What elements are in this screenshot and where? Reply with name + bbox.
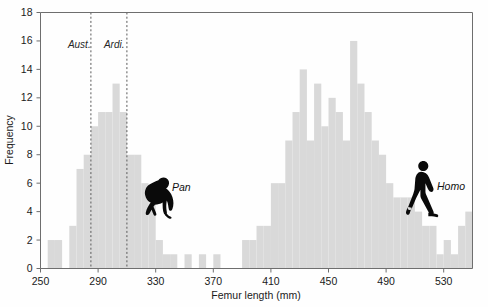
histogram-bar: [293, 112, 300, 268]
histogram-bar: [84, 155, 91, 269]
x-tick-label: 370: [205, 275, 223, 287]
histogram-bar: [257, 226, 264, 269]
histogram-bar: [242, 240, 249, 268]
histogram-bar: [365, 112, 372, 268]
y-tick-label: 14: [21, 63, 33, 75]
marker-label-ardi: Ardi.: [103, 39, 125, 50]
histogram-bar: [415, 212, 422, 269]
histogram-bar: [408, 197, 415, 268]
x-tick-label: 250: [32, 275, 50, 287]
histogram-bar: [350, 41, 357, 269]
y-tick-label: 6: [27, 177, 33, 189]
histogram-bar: [458, 226, 465, 269]
x-tick-label: 330: [147, 275, 165, 287]
histogram-bar: [314, 84, 321, 269]
y-tick-label: 16: [21, 34, 33, 46]
histogram-bar: [321, 126, 328, 268]
x-tick-label: 490: [377, 275, 395, 287]
histogram-bar: [120, 112, 127, 268]
histogram-bar: [77, 169, 84, 269]
histogram-bar: [372, 141, 379, 269]
histogram-bar: [91, 126, 98, 268]
y-axis-title: Frequency: [3, 114, 15, 164]
histogram-bar: [185, 254, 192, 268]
histogram-bar: [199, 254, 206, 268]
histogram-bar: [444, 240, 451, 268]
histogram-bar: [379, 155, 386, 269]
histogram-bar: [134, 155, 141, 269]
marker-label-aust: Aust.: [67, 39, 91, 50]
histogram-figure: Aust.Ardi. 024681012141618 2502903303704…: [0, 0, 488, 307]
histogram-bar: [156, 240, 163, 268]
histogram-bar: [55, 240, 62, 268]
histogram-bar: [336, 112, 343, 268]
histogram-bar: [401, 197, 408, 268]
histogram-bar: [249, 240, 256, 268]
histogram-bar: [329, 98, 336, 269]
histogram-bar: [113, 84, 120, 269]
x-tick-label: 530: [435, 275, 453, 287]
y-tick-label: 0: [27, 262, 33, 274]
femur-length-histogram: Aust.Ardi. 024681012141618 2502903303704…: [0, 0, 488, 307]
y-axis-ticks: 024681012141618: [21, 6, 41, 274]
histogram-bar: [69, 226, 76, 269]
histogram-bar: [451, 254, 458, 268]
histogram-bar: [278, 183, 285, 268]
histogram-bar: [105, 112, 112, 268]
histogram-bar: [422, 226, 429, 269]
histogram-bar: [127, 155, 134, 269]
x-axis-ticks: 250290330370410450490530: [32, 269, 453, 287]
y-tick-label: 8: [27, 148, 33, 160]
y-tick-label: 2: [27, 234, 33, 246]
histogram-bar: [393, 197, 400, 268]
chimpanzee-silhouette: [145, 177, 174, 218]
y-tick-label: 12: [21, 91, 33, 103]
histogram-bar: [386, 183, 393, 268]
histogram-bar: [465, 212, 472, 269]
y-tick-label: 18: [21, 6, 33, 18]
histogram-bar: [437, 254, 444, 268]
histogram-bar: [429, 226, 436, 269]
y-tick-label: 10: [21, 120, 33, 132]
y-tick-label: 4: [27, 205, 33, 217]
x-tick-label: 450: [320, 275, 338, 287]
histogram-bar: [170, 254, 177, 268]
x-tick-label: 410: [262, 275, 280, 287]
histogram-bar: [343, 141, 350, 269]
x-axis-title: Femur length (mm): [211, 289, 300, 301]
histogram-bar: [271, 183, 278, 268]
histogram-bars: [48, 41, 473, 269]
group-label-pan: Pan: [172, 181, 191, 193]
histogram-bar: [213, 254, 220, 268]
histogram-bar: [98, 112, 105, 268]
histogram-bar: [48, 240, 55, 268]
histogram-bar: [285, 141, 292, 269]
histogram-bar: [307, 141, 314, 269]
histogram-bar: [300, 69, 307, 268]
group-label-homo: Homo: [437, 180, 465, 192]
x-tick-label: 290: [89, 275, 107, 287]
histogram-bar: [264, 226, 271, 269]
histogram-bar: [357, 84, 364, 269]
histogram-bar: [163, 254, 170, 268]
